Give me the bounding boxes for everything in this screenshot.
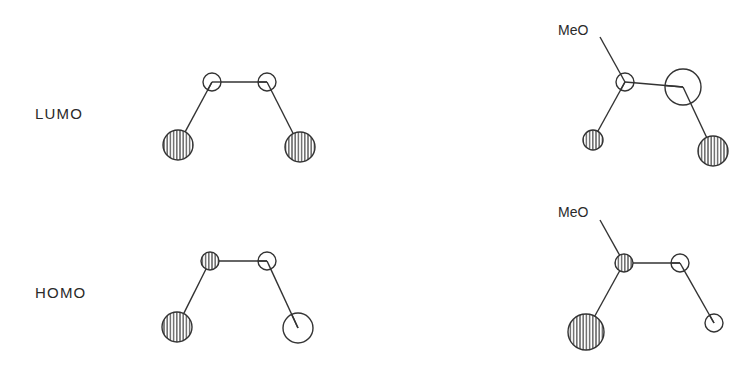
methoxybutadiene-homo-molecule: MeO (558, 204, 723, 350)
shaded-orbital-lobe (285, 132, 315, 162)
shaded-orbital-lobe (615, 254, 633, 272)
shaded-orbital-lobe (568, 314, 604, 350)
shaded-orbital-lobe (583, 130, 603, 150)
methoxy-bond-line (600, 37, 625, 82)
bond-line (292, 314, 298, 328)
orbital-diagram: LUMO HOMO MeO MeO (0, 0, 753, 366)
homo-label: HOMO (35, 284, 86, 301)
methoxybutadiene-lumo-molecule: MeO (558, 22, 728, 166)
bond-line (710, 315, 714, 323)
bond-line (208, 82, 212, 90)
shaded-orbital-lobe (201, 252, 219, 270)
butadiene-lumo-molecule (163, 73, 315, 162)
lumo-label: LUMO (35, 105, 83, 122)
bond-line (267, 261, 271, 269)
methoxy-label: MeO (558, 204, 588, 220)
bond-line (680, 263, 684, 271)
bond-line (665, 85, 683, 87)
orbital-figure: LUMO HOMO MeO MeO (0, 0, 753, 366)
shaded-orbital-lobe (162, 312, 192, 342)
shaded-orbital-lobe (698, 136, 728, 166)
bond-line (683, 87, 691, 103)
bond-line (621, 82, 625, 90)
bond-line (625, 82, 634, 83)
methoxy-label: MeO (558, 22, 588, 38)
butadiene-homo-molecule (162, 252, 313, 343)
bond-line (267, 82, 271, 90)
shaded-orbital-lobe (163, 130, 193, 160)
